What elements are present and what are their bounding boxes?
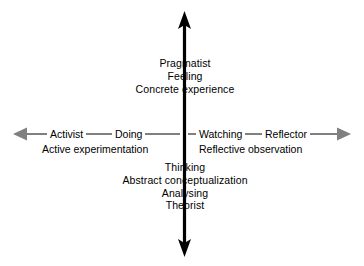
- label-theorist: Theorist: [6, 199, 364, 212]
- label-activist: Activist: [47, 128, 86, 140]
- label-analysing: Analysing: [6, 187, 364, 200]
- label-reflective-observation: Reflective observation: [199, 143, 302, 155]
- kolb-learning-styles-diagram: Pragmatist Feeling Concrete experience T…: [0, 0, 364, 266]
- label-watching: Watching: [196, 128, 245, 140]
- label-doing: Doing: [112, 128, 145, 140]
- concrete-experience-label-block: Pragmatist Feeling Concrete experience: [0, 57, 364, 95]
- label-thinking: Thinking: [6, 161, 364, 174]
- label-concrete-experience: Concrete experience: [6, 83, 364, 96]
- label-feeling: Feeling: [6, 70, 364, 83]
- label-reflector: Reflector: [262, 128, 310, 140]
- arrow-left-icon: [13, 128, 27, 141]
- arrow-right-icon: [337, 128, 351, 141]
- label-abstract-conceptualization: Abstract conceptualization: [6, 174, 364, 187]
- label-pragmatist: Pragmatist: [6, 57, 364, 70]
- label-active-experimentation: Active experimentation: [42, 143, 148, 155]
- abstract-conceptualization-label-block: Thinking Abstract conceptualization Anal…: [0, 161, 364, 212]
